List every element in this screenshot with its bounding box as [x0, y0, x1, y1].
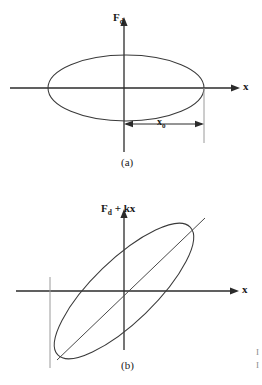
panel-b: Fd + kx x (b) [0, 178, 262, 385]
y-axis-b [120, 209, 127, 350]
edge-text-fragment-2: I [256, 361, 259, 370]
edge-text-fragment-1: I [256, 348, 259, 357]
y-axis-a [120, 17, 127, 152]
panel-b-caption: (b) [121, 360, 134, 371]
stiffness-line-b [57, 218, 205, 360]
x-axis-label-a: x [243, 81, 249, 92]
y-axis-label-a: Fd [113, 12, 124, 26]
figure-root: Fd x x0 (a) Fd [0, 0, 262, 385]
x-axis-a [10, 84, 240, 91]
panel-a: Fd x x0 (a) [0, 0, 262, 190]
x0-dimension-label: x0 [157, 117, 166, 130]
x-axis-b [16, 287, 239, 294]
x-axis-label-b: x [242, 284, 248, 295]
panel-a-caption: (a) [121, 157, 133, 168]
y-axis-label-b: Fd + kx [101, 203, 135, 217]
